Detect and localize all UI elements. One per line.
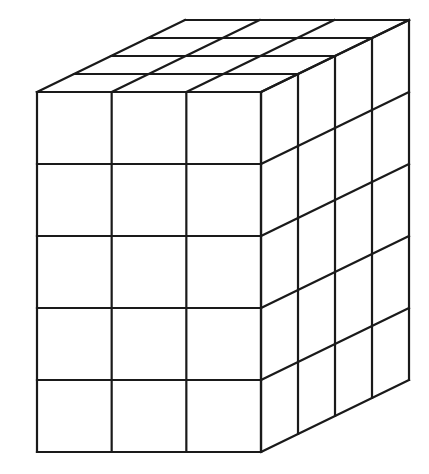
prism-drawing: [0, 0, 429, 474]
top-face: [37, 20, 409, 92]
right-side-face: [261, 20, 409, 452]
front-face: [37, 92, 261, 452]
cube-prism-figure: [0, 0, 429, 474]
